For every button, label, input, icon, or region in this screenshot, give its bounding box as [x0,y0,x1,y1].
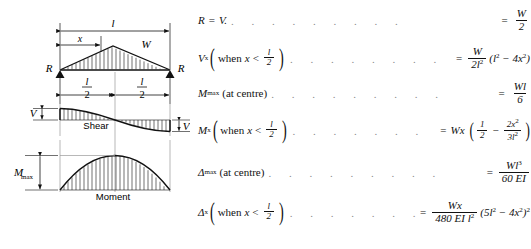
shear-left-label: V [30,107,38,119]
leader-dots: . . . . . . . . . [290,53,452,64]
deflection-x-tail: (5l2 − 4x2)2 [480,206,530,218]
deflection-x-denominator: 480 EI l2 [432,212,477,225]
half-span-right-den: 2 [139,89,144,100]
half-span-right-num: l [141,76,144,87]
moment-x-cond-num: l [267,120,276,129]
moment-x-frac2: 2x2 3l2 [504,118,522,142]
moment-x-f2-num: 2x2 [504,118,522,129]
formula-rhs-shear-x: = W 2l2 (l2 − 4x2) [456,46,531,70]
shear-x-fraction: W 2l2 [468,46,486,70]
leader-dots: . . . . . . . . . [231,15,498,26]
formula-lhs-reaction: R = V. [190,14,227,26]
moment-max-subscript: max [207,89,219,97]
shear-x-numerator: W [470,46,485,58]
deflection-x-cond-den: 2 [264,211,275,221]
moment-x-cond-var: x [247,124,252,136]
x-label: x [77,33,83,44]
span-label: l [111,17,114,29]
deflection-x-cond-var: x [244,206,249,218]
deflection-max-num-base: Wl [506,159,518,171]
formula-rhs-moment-x: = Wx ( 1 2 − 2x2 3l2 ) [440,118,531,142]
moment-max-numerator: Wl [511,81,529,93]
deflection-x-fraction: Wx 480 EI l2 [432,200,477,224]
deflection-x-cond-rel: < [252,206,258,218]
support-right [166,70,175,78]
moment-max-denominator: 6 [514,93,526,106]
moment-x-group: ( 1 2 − 2x2 3l2 ) [468,118,531,142]
triangular-load-hatching [64,47,160,69]
formula-row-moment-max: Mmax (at centre) . . . . . . . . . = Wl … [190,73,531,113]
deflection-x-cond-num: l [265,202,274,211]
moment-x-cond-fraction: l 2 [266,120,277,140]
moment-x-f2-num-base: 2x [507,119,516,129]
reaction-fraction: W 2 [514,8,529,32]
moment-x-frac1: 1 2 [477,120,488,140]
mmax-label-sub: max [21,173,34,181]
leader-dots: . . . . . . . . . [268,167,482,178]
shear-x-symbol: V [198,52,205,64]
deflection-max-denominator: 60 EI [499,172,529,185]
moment-max-note: (at centre) [222,87,267,99]
half-span-fraction-left: l 2 [82,76,92,100]
moment-x-minus: − [492,124,498,136]
deflection-max-subscript: max [204,168,216,176]
reaction-shear-symbol: V. [219,14,227,26]
deflection-x-den-exp: 2 [471,212,475,220]
moment-x-f1-den: 2 [477,130,488,140]
support-left [56,70,65,78]
shear-x-tail-close: ) [526,52,530,64]
deflection-x-condition: ( when x < l 2 ) [208,202,286,223]
reaction-numerator: W [514,8,529,20]
shear-x-cond-den: 2 [264,57,275,67]
reaction-denominator: 2 [516,20,528,33]
formula-rhs-moment-max: = Wl 6 [499,81,531,105]
deflection-x-den-base: 480 EI l [435,212,470,224]
shear-x-cond-var: x [245,52,250,64]
deflection-max-fraction: Wl3 60 EI [499,160,529,184]
shear-x-tail-mid: − 4x [500,52,523,64]
shear-x-tail: (l2 − 4x2) [489,52,530,64]
moment-max-fraction: Wl 6 [511,81,529,105]
deflection-x-numerator: Wx [445,200,465,212]
moment-x-lead: Wx [451,124,465,136]
shear-x-cond-rel: < [253,52,259,64]
deflection-x-tail-exp3: 2 [527,206,531,214]
shear-x-when: when [218,52,242,64]
leader-dots: . . . . . . . . . [271,88,494,99]
formula-row-reaction: R = V. . . . . . . . . . = W 2 [190,0,531,40]
moment-x-when: when [220,124,244,136]
triangular-load-outline [61,46,169,70]
moment-x-cond-den: 2 [266,129,277,139]
formula-row-moment-x: Mx ( when x < l 2 ) . . . . . . . . . [190,110,531,150]
deflection-x-tail-mid: − 4x [496,206,519,218]
leader-dots: . . . . . . . . . [292,125,436,136]
deflection-x-when: when [218,206,242,218]
formula-lhs-deflection-max: Δmax (at centre) [190,166,264,178]
half-span-fraction-right: l 2 [137,76,147,100]
deflection-max-note: (at centre) [220,166,265,178]
formula-row-deflection-max: Δmax (at centre) . . . . . . . . . = Wl3… [190,152,531,192]
formula-list: R = V. . . . . . . . . . = W 2 Vx ( wh [190,0,531,249]
moment-x-condition: ( when x < l 2 ) [211,120,289,141]
moment-max-symbol: M [198,87,207,99]
moment-x-f1-num: 1 [477,120,488,129]
moment-x-f2-den: 3l2 [504,130,521,142]
formula-lhs-moment-x: Mx ( when x < l 2 ) [190,120,288,141]
shear-x-tail-open: (l [489,52,496,64]
formula-lhs-moment-max: Mmax (at centre) [190,87,267,99]
deflection-x-tail-open: (5l [480,206,492,218]
shear-x-den-base: 2l [471,58,480,70]
formula-rhs-deflection-x: = Wx 480 EI l2 (5l2 − 4x2)2 [420,200,531,224]
formula-lhs-deflection-x: Δx ( when x < l 2 ) [190,202,286,223]
beam-formula-sheet: l x [0,0,531,249]
formula-lhs-shear-x: Vx ( when x < l 2 ) [190,48,286,69]
beam-diagram-svg: l x [0,0,190,249]
shear-x-cond-num: l [265,48,274,57]
reaction-right-label: R [177,62,185,74]
moment-x-f2-den-exp: 2 [514,130,518,138]
formula-rhs-reaction: = W 2 [502,8,531,32]
formula-row-shear-x: Vx ( when x < l 2 ) . . . . . . . . . [190,38,531,78]
half-span-left-num: l [86,76,89,87]
reaction-symbol: R [198,14,205,26]
moment-x-f2-num-exp: 2 [515,117,519,125]
